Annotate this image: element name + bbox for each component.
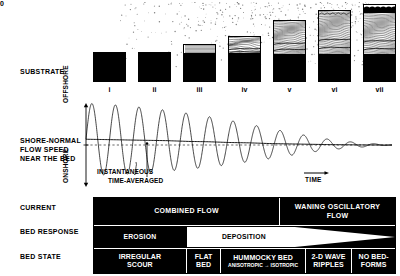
- substrate-stage-label-iii: iii: [183, 86, 216, 93]
- panel-laminae-vii: [364, 13, 396, 58]
- figure-root: SUBSTRATE SHORE-NORMAL FLOW SPEED NEAR T…: [0, 0, 400, 276]
- table-cell-bedstate-4-line0: NO BED-: [359, 253, 389, 262]
- substrate-panel-vii: [363, 4, 396, 82]
- panel-base-vii: [364, 54, 396, 81]
- table-cell-current-0: COMBINED FLOW: [94, 198, 279, 225]
- panel-surface-marks-i: [94, 52, 126, 55]
- annotation-instantaneous: INSTANTANEOUS: [97, 168, 153, 175]
- table-cell-bedstate-0-line1: SCOUR: [127, 261, 153, 270]
- table-cell-bedstate-4: NO BED-FORMS: [351, 249, 395, 273]
- table-cell-current-1: WANING OSCILLATORYFLOW: [279, 198, 395, 225]
- y-axis-label-onshore: ONSHORE: [62, 149, 69, 183]
- table-row-bed-state: IRREGULARSCOURFLATBEDHUMMOCKY BEDANISOTR…: [94, 249, 395, 273]
- panel-cap-vii: [364, 5, 396, 13]
- table-cell-deposition-label: DEPOSITION: [222, 233, 266, 242]
- substrate-panel-v: [273, 20, 306, 82]
- substrate-stage-label-iv: iv: [228, 86, 261, 93]
- panel-base-ii: [139, 52, 171, 81]
- substrate-stage-label-ii: ii: [138, 86, 171, 93]
- table-cell-bedstate-0: IRREGULARSCOUR: [94, 249, 186, 273]
- table-cell-bedstate-2: HUMMOCKY BEDANISOTROPIC → ISOTROPIC: [220, 249, 304, 273]
- table-cell-bedstate-3-line1: RIPPLES: [313, 261, 344, 270]
- row-label-current: CURRENT: [20, 203, 56, 212]
- table-cell-bedstate-0-line0: IRREGULAR: [119, 253, 162, 262]
- panel-cap-vi: [319, 11, 351, 15]
- substrate-panel-iv: [228, 36, 261, 82]
- table-cell-current-0-line0: COMBINED FLOW: [154, 207, 219, 216]
- panel-laminae-vi: [319, 11, 351, 57]
- row-label-flow-speed-line2: FLOW SPEED: [20, 145, 81, 154]
- table-cell-current-1-line1: FLOW: [327, 212, 349, 221]
- panel-base-iv: [229, 53, 261, 81]
- table-cell-bedstate-1-line0: FLAT: [195, 253, 213, 262]
- substrate-stage-label-i: i: [93, 86, 126, 93]
- table-cell-bedstate-3: 2-D WAVERIPPLES: [305, 249, 352, 273]
- facies-table: COMBINED FLOWWANING OSCILLATORYFLOWEROSI…: [93, 197, 396, 274]
- table-cell-bedstate-3-line0: 2-D WAVE: [311, 253, 345, 262]
- panel-base-iii: [184, 53, 216, 81]
- table-cell-current-1-line0: WANING OSCILLATORY: [295, 203, 380, 212]
- table-cell-deposition: DEPOSITION: [186, 226, 301, 248]
- substrate-panel-iii: [183, 44, 216, 82]
- row-label-bed-state: BED STATE: [20, 252, 61, 261]
- panel-base-v: [274, 54, 306, 81]
- row-label-flow-speed-line3: NEAR THE BED: [20, 154, 81, 163]
- panel-base-vi: [319, 54, 351, 81]
- substrate-panel-vi: [318, 10, 351, 82]
- table-cell-bedstate-4-line1: FORMS: [361, 261, 387, 270]
- table-cell-bedstate-1-line1: BED: [196, 261, 211, 270]
- substrate-panel-i: [93, 52, 126, 82]
- substrate-stage-label-vii: vii: [363, 86, 396, 93]
- table-cell-erosion-label: EROSION: [124, 233, 157, 242]
- substrate-panel-ii: [138, 52, 171, 82]
- substrate-panel-row: iiiiiiivvvivii: [93, 4, 396, 82]
- substrate-stage-label-v: v: [273, 86, 306, 93]
- y-axis-label-offshore: OFFSHORE: [62, 65, 69, 103]
- substrate-stage-label-vi: vi: [318, 86, 351, 93]
- series-instantaneous: [86, 104, 392, 175]
- x-axis-label-time: TIME: [305, 176, 322, 183]
- table-cell-bedstate-1: FLATBED: [186, 249, 221, 273]
- panel-base-i: [94, 52, 126, 81]
- table-cell-erosion: EROSION: [94, 226, 186, 248]
- panel-laminae-v: [274, 21, 306, 57]
- table-cell-bedstate-2-line0: HUMMOCKY BED: [233, 254, 293, 263]
- row-label-substrate: SUBSTRATE: [20, 67, 65, 76]
- row-label-flow-speed: SHORE-NORMAL FLOW SPEED NEAR THE BED: [20, 136, 81, 163]
- table-cell-bedstate-2-sublabel: ANISOTROPIC → ISOTROPIC: [228, 262, 298, 268]
- row-label-flow-speed-line1: SHORE-NORMAL: [20, 136, 81, 145]
- table-row-current: COMBINED FLOWWANING OSCILLATORYFLOW: [94, 198, 395, 225]
- row-label-bed-response: BED RESPONSE: [20, 227, 79, 236]
- annotation-time-averaged: TIME-AVERAGED: [108, 177, 163, 184]
- table-row-bed-response: EROSIONDEPOSITION: [94, 226, 395, 248]
